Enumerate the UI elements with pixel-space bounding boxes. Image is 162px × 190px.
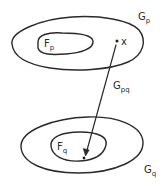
label-g-pq: Gpq [113,80,130,94]
label-f-q: Fq [57,141,67,155]
label-g-q: Gq [144,164,156,178]
label-f-p: Fp [44,38,55,52]
mapping-diagram: Gp Fp x Gpq Fq Gq [0,0,162,190]
region-g-q-outline [21,117,143,173]
arrowhead-icon [83,149,89,157]
label-point-x: x [121,36,127,47]
image-point-dot [83,157,86,160]
point-x-dot [116,40,119,43]
label-g-p: Gp [138,11,151,25]
